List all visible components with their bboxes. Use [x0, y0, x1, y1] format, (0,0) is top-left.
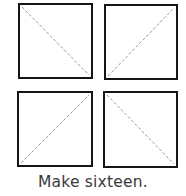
diagonal-dashed-line	[20, 5, 91, 77]
square-bottom-left	[17, 91, 93, 167]
square-top-left	[18, 3, 93, 79]
diagonal-dashed-line	[19, 93, 91, 165]
square-top-right	[104, 4, 178, 80]
square-bottom-right	[103, 91, 178, 168]
diagonal-dashed-line	[106, 6, 176, 78]
caption-text: Make sixteen.	[38, 173, 184, 191]
diagonal-dashed-line	[105, 93, 176, 166]
